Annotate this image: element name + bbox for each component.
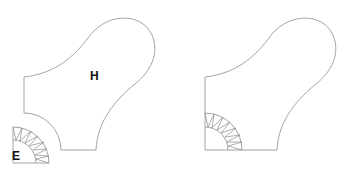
label-h: H — [90, 69, 99, 83]
shape-h — [24, 18, 155, 150]
diagram-canvas: H E — [0, 0, 349, 175]
label-e: E — [12, 149, 20, 163]
sector-fitted — [205, 113, 242, 150]
shape-fitted — [205, 18, 336, 150]
